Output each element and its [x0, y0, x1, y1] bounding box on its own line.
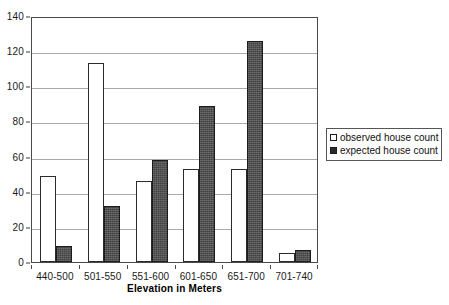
bar-group	[231, 18, 263, 262]
y-axis-tick-label: 140	[7, 12, 24, 22]
x-axis-tick-label: 501-550	[84, 271, 121, 283]
y-axis-tick-mark	[26, 87, 30, 88]
x-axis-title: Elevation in Meters	[31, 283, 318, 294]
y-axis-tick-label: 120	[7, 47, 24, 57]
hollow-square-icon	[330, 134, 337, 141]
x-axis-tick-label: 440-500	[36, 271, 73, 283]
legend-item: observed house count	[330, 131, 438, 144]
y-axis-tick-label: 20	[12, 223, 24, 233]
x-axis-tick-mark	[127, 265, 128, 269]
bar-chart-figure: 020406080100120140 440-500501-550551-600…	[0, 0, 449, 305]
bar-observed	[279, 253, 295, 262]
bar-group	[40, 18, 72, 262]
y-axis-tick-mark	[26, 17, 30, 18]
y-axis-tick-mark	[26, 263, 30, 264]
bar-expected	[104, 206, 120, 262]
bar-expected	[152, 160, 168, 262]
x-axis-tick-label: 701-740	[275, 271, 312, 283]
bar-group	[279, 18, 311, 262]
legend-item-label: expected house count	[340, 145, 438, 156]
y-axis-tick-label: 0	[18, 258, 24, 268]
bar-expected	[56, 246, 72, 262]
bar-observed	[183, 169, 199, 262]
y-axis-tick-mark	[26, 122, 30, 123]
legend-item: expected house count	[330, 144, 438, 157]
bars-layer	[32, 18, 317, 262]
y-axis-tick-mark	[26, 227, 30, 228]
bar-observed	[40, 176, 56, 262]
bar-observed	[231, 169, 247, 262]
y-axis-tick-mark	[26, 192, 30, 193]
y-axis-tick-mark	[26, 52, 30, 53]
x-axis-tick-label: 601-650	[180, 271, 217, 283]
x-axis: 440-500501-550551-600601-650651-700701-7…	[31, 265, 318, 279]
x-axis-tick-mark	[222, 265, 223, 269]
bar-expected	[199, 106, 215, 262]
plot-area	[31, 17, 318, 263]
x-axis-tick-mark	[317, 265, 318, 269]
x-axis-tick-mark	[175, 265, 176, 269]
x-axis-tick-label: 551-600	[132, 271, 169, 283]
chart-legend: observed house countexpected house count	[326, 128, 442, 161]
bar-observed	[136, 181, 152, 262]
bar-observed	[88, 63, 104, 262]
y-axis: 020406080100120140	[0, 11, 30, 263]
y-axis-tick-label: 60	[12, 153, 24, 163]
bar-group	[183, 18, 215, 262]
y-axis-tick-label: 40	[12, 188, 24, 198]
bar-expected	[247, 41, 263, 262]
legend-item-label: observed house count	[340, 132, 438, 143]
x-axis-tick-label: 651-700	[228, 271, 265, 283]
y-axis-tick-label: 100	[7, 82, 24, 92]
y-axis-tick-label: 80	[12, 117, 24, 127]
y-axis-tick-mark	[26, 157, 30, 158]
x-axis-tick-mark	[31, 265, 32, 269]
bar-expected	[295, 250, 311, 262]
filled-square-icon	[330, 147, 337, 154]
bar-group	[136, 18, 168, 262]
bar-group	[88, 18, 120, 262]
x-axis-tick-mark	[79, 265, 80, 269]
x-axis-tick-mark	[270, 265, 271, 269]
